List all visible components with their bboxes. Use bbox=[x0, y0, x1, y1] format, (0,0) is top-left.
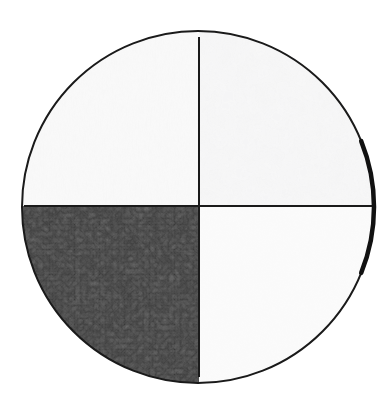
figure-canvas: Circular four-quadrant sample field Quad… bbox=[0, 0, 377, 412]
quadrant-circle-figure bbox=[0, 0, 377, 412]
